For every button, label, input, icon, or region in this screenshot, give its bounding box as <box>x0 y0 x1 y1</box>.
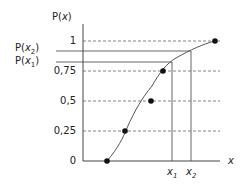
x2-tick-label: x2 <box>186 167 196 181</box>
x1-tick-label: x1 <box>167 167 177 181</box>
y-tick-0: 0 <box>36 156 76 166</box>
y-tick-025: 0,25 <box>36 126 76 136</box>
guide-lines <box>56 51 191 161</box>
y-tick-075: 0,75 <box>36 66 76 76</box>
y-tick-1: 1 <box>36 36 76 46</box>
x-axis-label: x <box>228 156 234 166</box>
p-x1-label: P(x1) <box>15 56 39 70</box>
y-tick-05: 0,5 <box>36 96 76 106</box>
y-axis-label: P(x) <box>52 12 72 22</box>
axes <box>83 24 220 161</box>
